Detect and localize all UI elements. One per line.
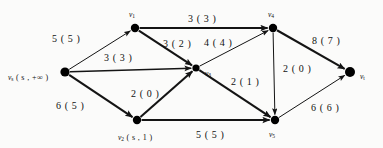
node-label-v5: v5	[269, 131, 275, 139]
edge-vs-to-v3	[70, 68, 191, 72]
node-annotation-v2: ( s , 1 )	[124, 133, 152, 142]
node-label-subscript-v3: 3	[208, 72, 211, 78]
node-v4	[269, 24, 277, 32]
node-label-v2: v2 ( s , 1 )	[118, 134, 153, 142]
node-label-subscript-v1: 1	[132, 13, 135, 19]
node-v2	[133, 116, 141, 124]
node-label-subscript-v5: 5	[272, 133, 275, 139]
node-annotation-vs: ( s , +∞ )	[13, 73, 48, 82]
node-vs	[60, 67, 69, 76]
edge-v3-to-v4	[200, 30, 269, 66]
edge-label-vs-to-v3: 3 ( 3 )	[104, 53, 132, 63]
edge-v4-to-v5	[273, 33, 275, 115]
edge-label-v4-to-v5: 2 ( 0 )	[283, 64, 311, 74]
node-vt	[345, 67, 355, 77]
node-label-v4: v4	[268, 11, 274, 19]
edge-label-vs-to-v2: 6 ( 5 )	[56, 101, 84, 111]
node-label-subscript-vt: t	[363, 75, 365, 81]
edge-label-v4-to-vt: 8 ( 7 )	[312, 36, 340, 46]
edge-label-v2-to-v5: 5 ( 5 )	[196, 130, 224, 140]
edge-label-v3-to-v4: 4 ( 4 )	[204, 38, 232, 48]
node-label-v1: v1	[129, 11, 135, 19]
edge-label-v2-to-v3: 2 ( 0 )	[131, 89, 159, 99]
edge-label-vs-to-v1: 5 ( 5 )	[52, 34, 80, 44]
node-v1	[131, 24, 139, 32]
node-v5	[271, 116, 279, 124]
node-v3	[192, 64, 199, 71]
edge-label-v1-to-v4: 3 ( 3 )	[188, 14, 216, 24]
node-label-subscript-v4: 4	[271, 13, 274, 19]
edge-label-v3-to-v5: 2 ( 1 )	[231, 77, 259, 87]
node-label-vt: vt	[360, 73, 365, 81]
node-label-v3: v3	[205, 70, 211, 78]
edge-label-v1-to-v3: 3 ( 2 )	[163, 39, 191, 49]
edge-label-v5-to-vt: 6 ( 6 )	[311, 103, 339, 113]
node-label-vs: vs ( s , +∞ )	[8, 74, 49, 82]
network-flow-figure: 5 ( 5 )3 ( 3 )6 ( 5 )3 ( 3 )3 ( 2 )2 ( 0…	[0, 0, 383, 148]
